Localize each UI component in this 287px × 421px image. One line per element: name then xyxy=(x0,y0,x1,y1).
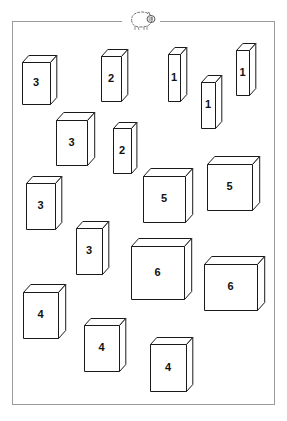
box-number: 6 xyxy=(131,267,184,278)
box-number: 4 xyxy=(84,342,119,353)
number-box: 6 xyxy=(204,256,265,310)
number-box: 1 xyxy=(201,75,222,128)
number-box: 2 xyxy=(101,49,128,101)
box-number: 3 xyxy=(56,137,87,148)
number-box: 3 xyxy=(76,221,109,274)
number-box: 6 xyxy=(131,238,192,299)
box-number: 6 xyxy=(204,281,257,292)
number-box: 3 xyxy=(56,112,95,165)
number-box: 4 xyxy=(84,318,126,371)
box-number: 3 xyxy=(76,245,102,256)
box-number: 5 xyxy=(143,193,185,204)
number-box: 3 xyxy=(22,55,57,104)
number-box: 3 xyxy=(26,176,62,229)
number-box: 5 xyxy=(207,156,260,210)
worksheet-page: 3211132355366444 xyxy=(0,0,287,421)
box-number: 5 xyxy=(207,181,252,192)
box-number: 4 xyxy=(23,309,58,320)
pig-icon xyxy=(126,9,158,33)
box-number: 2 xyxy=(101,73,121,84)
box-number: 3 xyxy=(26,200,55,211)
number-box: 5 xyxy=(143,168,193,222)
number-box: 2 xyxy=(113,122,137,173)
box-number: 1 xyxy=(201,99,215,110)
number-box: 4 xyxy=(23,284,66,338)
number-box: 1 xyxy=(236,43,256,95)
number-box: 1 xyxy=(168,47,187,101)
box-number: 3 xyxy=(22,77,50,88)
box-number: 4 xyxy=(150,362,186,373)
number-box: 4 xyxy=(150,337,193,391)
box-number: 1 xyxy=(236,67,249,78)
box-number: 2 xyxy=(113,145,131,156)
box-number: 1 xyxy=(168,72,180,83)
